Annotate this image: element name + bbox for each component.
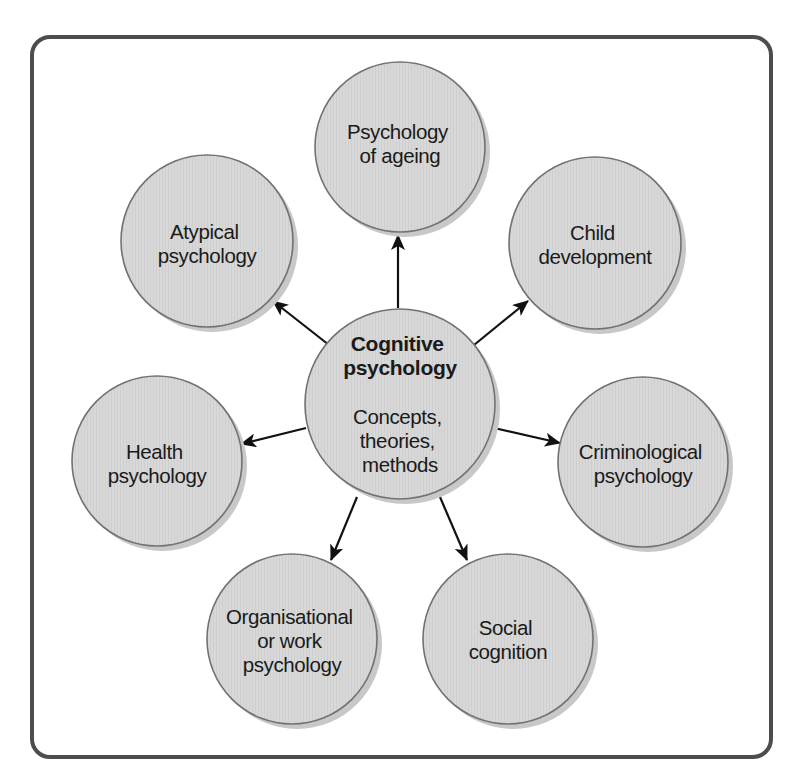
arrow-to-criminological bbox=[494, 428, 560, 443]
node-label-line: psychology bbox=[108, 464, 208, 487]
svg-text:Social cognition: Social cognition bbox=[469, 616, 547, 663]
node-child-development: Child development bbox=[509, 157, 686, 334]
node-label-line: psychology bbox=[594, 464, 694, 487]
node-label-line: Psychology bbox=[347, 120, 449, 143]
center-subtitle-line: Concepts, bbox=[353, 405, 442, 428]
center-title-line: Cognitive bbox=[351, 332, 444, 355]
node-label-line: psychology bbox=[243, 653, 343, 676]
center-subtitle-line: methods bbox=[362, 453, 438, 476]
node-label-line: Criminological bbox=[579, 440, 702, 463]
cognitive-psychology-diagram: Psychology of ageing Atypical psychology… bbox=[0, 0, 793, 780]
center-title-line: psychology bbox=[343, 356, 457, 379]
arrow-to-atypical bbox=[273, 301, 329, 345]
center-subtitle-line: theories, bbox=[360, 429, 435, 452]
node-label-line: Organisational bbox=[226, 605, 353, 628]
node-label-line: cognition bbox=[469, 640, 547, 663]
svg-text:Atypical psychology: Atypical psychology bbox=[158, 220, 258, 267]
node-organisational-psychology: Organisational or work psychology bbox=[207, 554, 382, 729]
node-criminological-psychology: Criminological psychology bbox=[558, 377, 733, 552]
node-health-psychology: Health psychology bbox=[72, 376, 247, 551]
node-cognitive-psychology-center: Cognitive psychology Concepts, theories,… bbox=[305, 309, 500, 504]
svg-text:Criminological psycholog: Criminological psychology bbox=[579, 440, 707, 487]
node-label-line: Child bbox=[570, 221, 615, 244]
arrow-to-organisational bbox=[331, 497, 357, 560]
svg-text:Cognitive psychology: Cognitive psychology bbox=[343, 332, 457, 379]
svg-text:Concepts, theories,: Concepts, theories, methods bbox=[353, 405, 447, 476]
node-label-line: development bbox=[539, 245, 653, 268]
node-social-cognition: Social cognition bbox=[423, 554, 598, 729]
node-label-line: psychology bbox=[158, 244, 258, 267]
node-atypical-psychology: Atypical psychology bbox=[121, 155, 298, 332]
node-label-line: Social bbox=[479, 616, 532, 639]
svg-text:Psychology of ageing: Psychology of ageing bbox=[347, 120, 453, 167]
arrow-to-social bbox=[440, 497, 467, 560]
node-label-line: of ageing bbox=[360, 144, 441, 167]
node-label-line: Atypical bbox=[170, 220, 239, 243]
node-psychology-of-ageing: Psychology of ageing bbox=[315, 62, 490, 237]
arrow-to-health bbox=[241, 428, 306, 444]
node-label-line: Health bbox=[126, 440, 183, 463]
arrow-to-child bbox=[474, 301, 528, 345]
node-label-line: or work bbox=[257, 629, 323, 652]
